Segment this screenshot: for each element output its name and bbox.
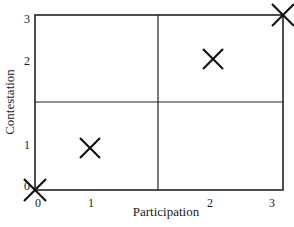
y-tick-label: 1 — [24, 139, 30, 151]
x-tick-label: 0 — [35, 197, 41, 209]
y-tick-label: 0 — [24, 180, 30, 192]
plot-area — [0, 0, 294, 227]
x-axis-label: Participation — [133, 205, 199, 218]
quadrant-dividers — [35, 15, 283, 190]
y-tick-label: 3 — [24, 13, 30, 25]
quadrant-chart: 3210 0123 Contestation Participation — [0, 0, 294, 227]
x-tick-label: 1 — [88, 197, 94, 209]
x-marker-icon — [203, 49, 223, 69]
x-marker-icon — [80, 138, 100, 158]
y-axis-label: Contestation — [3, 69, 16, 135]
y-tick-label: 2 — [24, 55, 30, 67]
x-tick-label: 3 — [269, 197, 275, 209]
x-tick-label: 2 — [207, 197, 213, 209]
